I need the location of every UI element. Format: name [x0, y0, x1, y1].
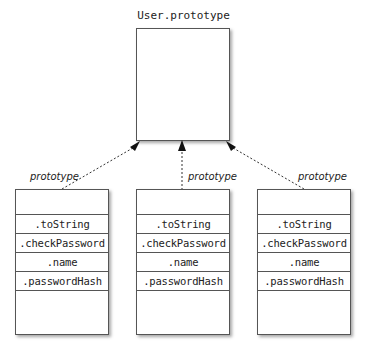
object-header	[16, 190, 108, 215]
object-header	[137, 190, 229, 215]
property-passwordhash: .passwordHash	[137, 272, 229, 291]
arrowhead-right-icon	[226, 141, 236, 151]
edge-label-left: prototype	[30, 171, 79, 182]
property-tostring: .toString	[137, 215, 229, 234]
object-header	[258, 190, 350, 215]
property-name: .name	[258, 253, 350, 272]
edge-label-middle: prototype	[188, 171, 237, 182]
property-name: .name	[137, 253, 229, 272]
edge-right	[228, 145, 304, 189]
object-body	[16, 291, 108, 334]
property-passwordhash: .passwordHash	[16, 272, 108, 291]
property-tostring: .toString	[16, 215, 108, 234]
property-checkpassword: .checkPassword	[137, 234, 229, 253]
property-checkpassword: .checkPassword	[16, 234, 108, 253]
edge-label-right: prototype	[298, 171, 347, 182]
property-passwordhash: .passwordHash	[258, 272, 350, 291]
property-name: .name	[16, 253, 108, 272]
edge-left	[62, 145, 138, 189]
arrowhead-left-icon	[130, 141, 140, 151]
object-body	[258, 291, 350, 334]
object-box-right: .toString .checkPassword .name .password…	[257, 189, 351, 335]
object-body	[137, 291, 229, 334]
object-box-left: .toString .checkPassword .name .password…	[15, 189, 109, 335]
arrowhead-middle-icon	[178, 140, 186, 151]
property-tostring: .toString	[258, 215, 350, 234]
property-checkpassword: .checkPassword	[258, 234, 350, 253]
object-box-middle: .toString .checkPassword .name .password…	[136, 189, 230, 335]
